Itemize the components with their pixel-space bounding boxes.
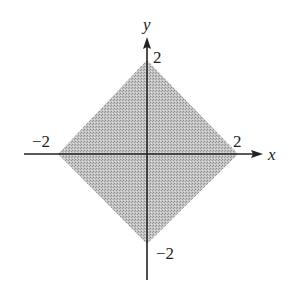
tick-label-y-pos: 2 (153, 48, 162, 67)
tick-label-y-neg: −2 (156, 244, 174, 263)
tick-label-x-pos: 2 (233, 132, 242, 151)
tick-label-x-neg: −2 (32, 132, 50, 151)
y-axis-label: y (141, 15, 151, 34)
shaded-diamond-region (58, 60, 238, 244)
x-axis-label: x (267, 145, 276, 164)
diagram-canvas: x y −2 2 2 −2 (0, 0, 302, 298)
diamond-region-plot: x y −2 2 2 −2 (0, 0, 302, 298)
